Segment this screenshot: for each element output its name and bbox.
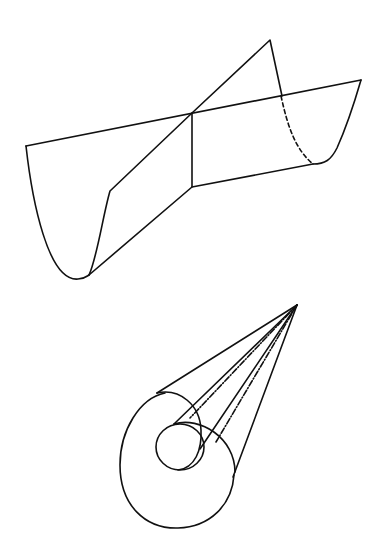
hidden-edge-dashed-line (281, 96, 313, 164)
saddle-edge-line (26, 80, 361, 146)
outer-loop-left-curve (120, 393, 234, 528)
saddle-surface-drawing (26, 40, 361, 279)
geometry-figure (0, 0, 379, 558)
saddle-edge-line (26, 146, 89, 279)
cone-generator-line (233, 305, 297, 477)
saddle-edge-line (313, 80, 361, 164)
saddle-edge-line (192, 164, 313, 187)
small-circle (156, 424, 204, 470)
cone-generator-line (200, 305, 297, 449)
saddle-edge-line (89, 113, 192, 275)
cone-drawing (120, 305, 297, 528)
cone-dashdot-line (216, 305, 297, 442)
diagram-canvas (0, 0, 379, 558)
saddle-edge-line (89, 40, 282, 275)
